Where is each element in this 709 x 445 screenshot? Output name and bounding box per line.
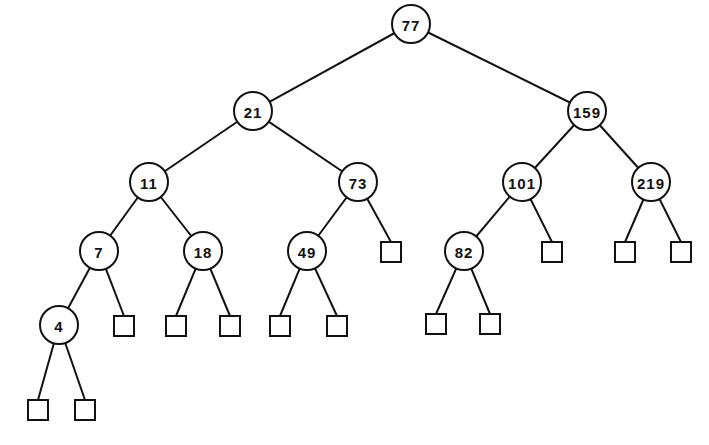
tree-node-82: 82 — [445, 232, 483, 270]
binary-tree-diagram: 7721159117310121971849824 — [0, 0, 709, 445]
tree-leaves — [28, 242, 691, 420]
leaf-square-shape — [381, 242, 401, 262]
node-label: 11 — [140, 175, 158, 192]
leaf-square-shape — [220, 316, 240, 336]
node-label: 219 — [637, 175, 665, 192]
leaf-square-shape — [542, 242, 562, 262]
leaf-square — [480, 314, 500, 334]
leaf-square-shape — [270, 316, 290, 336]
leaf-square — [28, 400, 48, 420]
tree-node-7: 7 — [80, 232, 118, 270]
leaf-square — [426, 314, 446, 334]
leaf-square-shape — [28, 400, 48, 420]
node-label: 4 — [54, 318, 63, 335]
leaf-square — [615, 242, 635, 262]
node-label: 73 — [349, 175, 368, 192]
tree-edges — [38, 24, 681, 400]
tree-node-49: 49 — [288, 232, 326, 270]
leaf-square — [381, 242, 401, 262]
leaf-square-shape — [615, 242, 635, 262]
node-label: 21 — [244, 104, 263, 121]
tree-edge — [411, 24, 587, 111]
leaf-square-shape — [426, 314, 446, 334]
tree-node-101: 101 — [503, 163, 541, 201]
tree-svg: 7721159117310121971849824 — [0, 0, 709, 445]
leaf-square — [270, 316, 290, 336]
leaf-square-shape — [480, 314, 500, 334]
tree-node-11: 11 — [130, 163, 168, 201]
tree-node-18: 18 — [184, 232, 222, 270]
tree-node-77: 77 — [392, 5, 430, 43]
tree-node-21: 21 — [234, 92, 272, 130]
node-label: 159 — [573, 104, 601, 121]
node-label: 77 — [402, 17, 421, 34]
leaf-square — [327, 316, 347, 336]
tree-node-219: 219 — [632, 163, 670, 201]
tree-node-73: 73 — [339, 163, 377, 201]
node-label: 82 — [455, 244, 474, 261]
leaf-square-shape — [671, 242, 691, 262]
tree-edge — [253, 24, 411, 111]
leaf-square — [75, 400, 95, 420]
tree-node-4: 4 — [40, 306, 78, 344]
leaf-square-shape — [75, 400, 95, 420]
leaf-square-shape — [166, 316, 186, 336]
leaf-square — [114, 316, 134, 336]
node-label: 101 — [508, 175, 536, 192]
leaf-square-shape — [327, 316, 347, 336]
leaf-square-shape — [114, 316, 134, 336]
node-label: 7 — [94, 244, 103, 261]
node-label: 18 — [194, 244, 213, 261]
leaf-square — [542, 242, 562, 262]
leaf-square — [166, 316, 186, 336]
leaf-square — [671, 242, 691, 262]
tree-node-159: 159 — [568, 92, 606, 130]
leaf-square — [220, 316, 240, 336]
node-label: 49 — [298, 244, 317, 261]
